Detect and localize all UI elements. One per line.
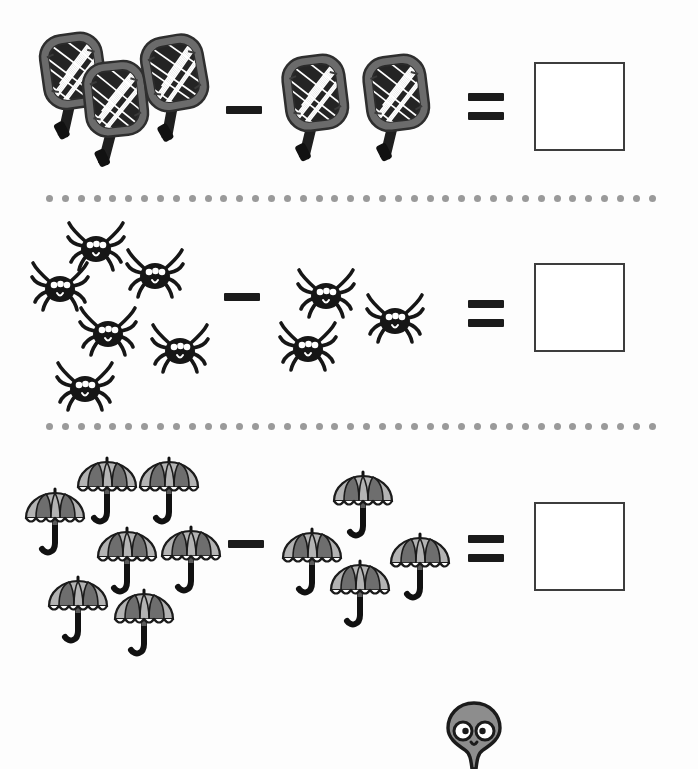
divider-dot (268, 423, 275, 430)
divider-dot (173, 423, 180, 430)
divider-dot (331, 195, 338, 202)
divider-dot (569, 195, 576, 202)
divider-dot (62, 195, 69, 202)
racket-icon (272, 48, 359, 166)
divider-dot (220, 195, 227, 202)
divider-dot (300, 423, 307, 430)
divider-dot (236, 195, 243, 202)
answer-box-3[interactable] (534, 502, 625, 591)
divider-dot (490, 195, 497, 202)
divider-dot (585, 195, 592, 202)
divider-dot (490, 423, 497, 430)
divider-dot (78, 195, 85, 202)
divider-dot (268, 195, 275, 202)
divider-dot (522, 423, 529, 430)
equals-operator-icon (468, 93, 504, 120)
divider-dot (252, 195, 259, 202)
divider-dot (633, 195, 640, 202)
divider-dot (173, 195, 180, 202)
problem-row-3 (0, 440, 698, 675)
divider-dot (316, 195, 323, 202)
divider-dot (474, 195, 481, 202)
divider-dot (569, 423, 576, 430)
equals-bar-top (468, 535, 504, 543)
divider-dot (189, 423, 196, 430)
equals-bar-bottom (468, 112, 504, 120)
divider-dot (379, 423, 386, 430)
divider-dot (427, 423, 434, 430)
equals-operator-icon (468, 300, 504, 327)
divider-dot (379, 195, 386, 202)
divider-dot (347, 423, 354, 430)
divider-dot (94, 195, 101, 202)
divider-dot (427, 195, 434, 202)
divider-dot (649, 423, 656, 430)
divider-dot (601, 423, 608, 430)
divider-dot (109, 195, 116, 202)
divider-dot (141, 195, 148, 202)
divider-dot (442, 423, 449, 430)
divider-dot (458, 423, 465, 430)
divider-dot (125, 423, 132, 430)
divider-dot (284, 423, 291, 430)
divider-dot (157, 195, 164, 202)
divider-dot (395, 423, 402, 430)
umbrella-icon (47, 573, 109, 645)
divider-dot (62, 423, 69, 430)
racket-icon (353, 48, 440, 166)
dotted-divider-2 (46, 422, 656, 430)
equals-bar-bottom (468, 554, 504, 562)
divider-dot (442, 195, 449, 202)
problem-row-1 (0, 0, 698, 188)
equals-bar-bottom (468, 319, 504, 327)
divider-dot (522, 195, 529, 202)
divider-dot (205, 195, 212, 202)
spider-icon (152, 321, 210, 377)
divider-dot (125, 195, 132, 202)
divider-dot (363, 195, 370, 202)
divider-dot (649, 195, 656, 202)
equals-operator-icon (468, 535, 504, 562)
divider-dot (506, 195, 513, 202)
divider-dot (601, 195, 608, 202)
spider-icon (127, 246, 185, 302)
answer-box-1[interactable] (534, 62, 625, 151)
spider-icon (367, 291, 425, 347)
umbrella-icon (138, 454, 200, 526)
divider-dot (316, 423, 323, 430)
umbrella-icon (113, 586, 175, 658)
divider-dot (554, 423, 561, 430)
umbrella-icon (329, 557, 391, 629)
divider-dot (506, 423, 513, 430)
divider-dot (205, 423, 212, 430)
alien-mascot-icon (443, 700, 505, 769)
divider-dot (633, 423, 640, 430)
divider-dot (220, 423, 227, 430)
worksheet-page (0, 0, 698, 769)
divider-dot (141, 423, 148, 430)
divider-dot (189, 195, 196, 202)
spider-icon (57, 359, 115, 415)
divider-dot (78, 423, 85, 430)
equals-bar-top (468, 93, 504, 101)
divider-dot (94, 423, 101, 430)
dotted-divider-1 (46, 194, 656, 202)
divider-dot (617, 423, 624, 430)
divider-dot (331, 423, 338, 430)
divider-dot (46, 195, 53, 202)
divider-dot (157, 423, 164, 430)
divider-dot (554, 195, 561, 202)
divider-dot (300, 195, 307, 202)
divider-dot (617, 195, 624, 202)
spider-icon (80, 304, 138, 360)
umbrella-icon (160, 523, 222, 595)
divider-dot (474, 423, 481, 430)
spider-icon (280, 319, 338, 375)
divider-dot (585, 423, 592, 430)
divider-dot (46, 423, 53, 430)
divider-dot (411, 423, 418, 430)
divider-dot (284, 195, 291, 202)
umbrella-icon (76, 454, 138, 526)
divider-dot (411, 195, 418, 202)
answer-box-2[interactable] (534, 263, 625, 352)
